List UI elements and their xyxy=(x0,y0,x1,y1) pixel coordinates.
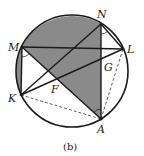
label-G: G xyxy=(104,61,113,74)
segment-NL xyxy=(101,24,123,49)
geometry-diagram: M N L K A F G (b) xyxy=(0,0,144,156)
label-F: F xyxy=(50,83,59,96)
label-A: A xyxy=(96,123,105,136)
label-M: M xyxy=(7,41,20,54)
dot-A xyxy=(99,117,102,120)
segment-AL xyxy=(101,49,123,119)
dot-M xyxy=(21,46,24,49)
label-K: K xyxy=(7,92,17,105)
dot-N xyxy=(100,23,103,26)
shaded-region-top xyxy=(22,16,101,119)
segment-MK xyxy=(21,47,22,95)
label-N: N xyxy=(96,8,107,21)
dot-L xyxy=(122,48,125,51)
label-L: L xyxy=(126,43,134,56)
dot-K xyxy=(20,94,23,97)
figure-caption: (b) xyxy=(63,141,77,152)
angle-mark-M xyxy=(22,54,29,57)
